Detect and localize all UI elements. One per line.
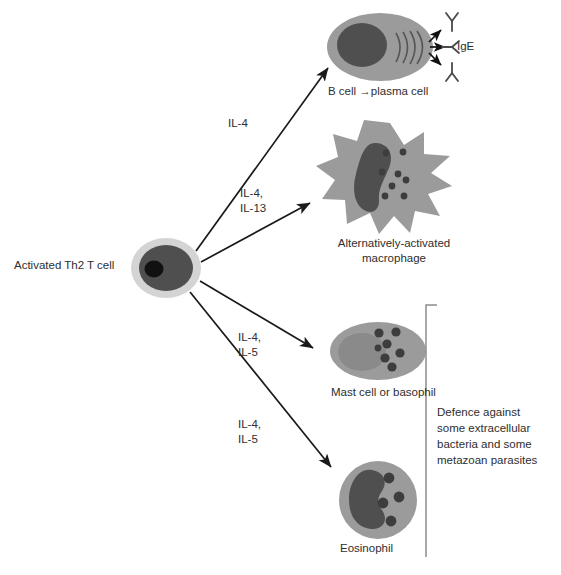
mast-cell-or-basophil [330,322,426,380]
label-ige: IgE [457,39,474,54]
label-b-cell-plasma-cell: B cell →plasma cell [328,84,428,99]
label-cytokine-il4-il5-mast: IL-4, IL-5 [238,330,261,360]
label-cytokine-il4-il5-eosinophil: IL-4, IL-5 [238,417,261,447]
label-mast-cell-or-basophil: Mast cell or basophil [331,385,436,400]
label-activated-th2-t-cell: Activated Th2 T cell [14,258,114,273]
label-alternatively-activated-macrophage: Alternatively-activated macrophage [308,236,480,266]
b-cell-plasma-cell [327,13,459,81]
cytokine-arrows [190,68,331,467]
label-cytokine-il4-b-cell: IL-4 [228,116,248,131]
grouping-bracket [426,305,437,557]
arrow-to-b-cell [196,68,328,251]
immunology-diagram: Activated Th2 T cell IL-4 IL-4, IL-13 IL… [0,0,561,575]
ige-antibody-1 [446,13,458,31]
label-defence-against: Defence against some extracellular bacte… [437,404,557,468]
ige-antibody-3 [446,63,458,81]
label-cytokine-il4-il13: IL-4, IL-13 [240,186,266,216]
eosinophil [339,461,417,539]
label-eosinophil: Eosinophil [340,541,393,556]
alternatively-activated-macrophage [316,120,452,234]
activated-th2-t-cell [131,238,201,298]
diagram-canvas [0,0,561,575]
